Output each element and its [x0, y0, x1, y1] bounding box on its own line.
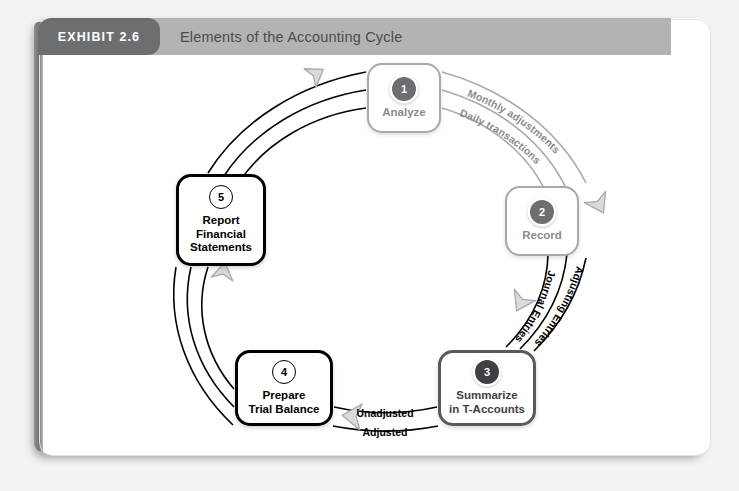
exhibit-title: Elements of the Accounting Cycle	[180, 18, 402, 55]
label-adjusted: Adjusted	[363, 426, 408, 438]
node-badge-4: 4	[272, 360, 296, 384]
node-badge-1: 1	[392, 77, 416, 101]
node-label-summarize: Summarize in T-Accounts	[449, 389, 525, 416]
exhibit-number-label: EXHIBIT 2.6	[58, 30, 140, 44]
cycle-diagram-canvas: Monthly adjustments Daily transactions J…	[38, 55, 710, 455]
label-daily-transactions: Daily transactions	[458, 106, 543, 166]
node-badge-2: 2	[530, 200, 554, 224]
node-badge-3: 3	[475, 360, 499, 384]
exhibit-figure: EXHIBIT 2.6 Elements of the Accounting C…	[0, 0, 739, 491]
node-badge-5: 5	[209, 185, 233, 209]
cycle-node-trial-balance[interactable]: 4 Prepare Trial Balance	[235, 350, 333, 426]
node-label-analyze: Analyze	[382, 106, 425, 120]
label-unadjusted: Unadjusted	[356, 407, 413, 419]
node-label-report: Report Financial Statements	[190, 214, 252, 255]
cycle-node-report[interactable]: 5 Report Financial Statements	[176, 174, 266, 266]
cycle-node-analyze[interactable]: 1 Analyze	[367, 63, 441, 133]
arrowhead-into-record	[584, 191, 614, 218]
node-label-record: Record	[522, 229, 562, 243]
cycle-node-summarize[interactable]: 3 Summarize in T-Accounts	[438, 350, 536, 426]
exhibit-number-tab: EXHIBIT 2.6	[38, 18, 160, 55]
node-label-trial-balance: Prepare Trial Balance	[249, 389, 320, 416]
cycle-node-record[interactable]: 2 Record	[505, 186, 579, 256]
